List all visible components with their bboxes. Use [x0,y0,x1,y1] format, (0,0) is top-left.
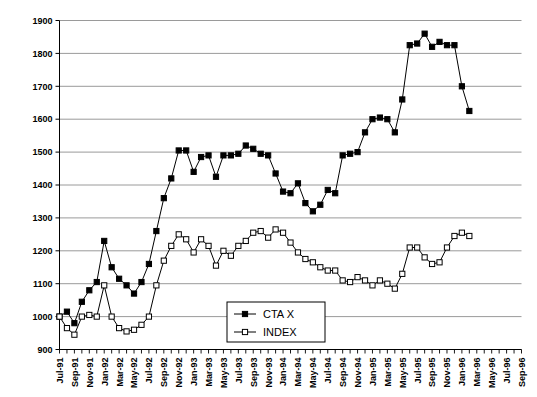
data-point-marker [273,227,278,232]
data-point-marker [325,268,330,273]
data-point-marker [236,151,241,156]
data-point-marker [452,233,457,238]
data-point-marker [228,153,233,158]
data-point-marker [236,243,241,248]
data-point-marker [206,153,211,158]
data-point-marker [243,238,248,243]
data-point-marker [198,154,203,159]
data-point-marker [377,115,382,120]
data-point-marker [266,235,271,240]
data-point-marker [258,228,263,233]
x-tick-label: Nov-91 [85,358,95,388]
x-tick-label: Sep-96 [517,358,527,388]
data-point-marker [94,279,99,284]
legend-label: CTA X [263,308,295,320]
legend-box: CTA XINDEX [227,302,325,342]
data-point-marker [64,309,69,314]
data-point-marker [139,279,144,284]
x-tick-label: Sep-95 [427,358,437,388]
series-cta-x [57,31,472,326]
x-axis [60,350,522,354]
data-point-marker [72,332,77,337]
legend-marker [242,329,247,334]
data-point-marker [429,261,434,266]
x-tick-label: Nov-94 [353,358,363,388]
data-point-marker [437,39,442,44]
data-point-marker [407,43,412,48]
data-point-marker [407,245,412,250]
data-point-marker [102,283,107,288]
data-point-marker [131,291,136,296]
data-point-marker [154,228,159,233]
data-point-marker [370,117,375,122]
data-point-marker [273,171,278,176]
data-point-marker [437,260,442,265]
data-point-marker [131,327,136,332]
chart-container: 9001000110012001300140015001600170018001… [0,0,537,397]
data-point-marker [467,108,472,113]
x-tick-label: Jul-96 [502,358,512,384]
data-point-marker [288,191,293,196]
data-point-marker [400,271,405,276]
data-point-marker [228,253,233,258]
y-tick-label: 1700 [32,82,52,92]
data-point-marker [169,176,174,181]
data-point-marker [400,97,405,102]
grid-lines [60,21,522,350]
x-tick-label: Jan-93 [189,358,199,387]
data-point-marker [444,245,449,250]
data-point-marker [94,314,99,319]
x-tick-label: Mar-92 [115,358,125,387]
x-tick-label: Nov-95 [442,358,452,388]
legend-marker [242,311,247,316]
x-tick-label: Jan-92 [100,358,110,387]
data-point-marker [117,326,122,331]
data-point-marker [124,329,129,334]
data-point-marker [109,314,114,319]
data-point-marker [303,256,308,261]
data-point-marker [362,278,367,283]
data-point-marker [333,191,338,196]
y-tick-label: 1200 [32,246,52,256]
data-point-marker [109,265,114,270]
data-point-marker [318,202,323,207]
data-point-marker [392,130,397,135]
data-point-marker [355,275,360,280]
data-point-marker [370,283,375,288]
data-point-marker [221,248,226,253]
line-chart: 9001000110012001300140015001600170018001… [0,0,537,397]
x-tick-label: Mar-96 [472,358,482,387]
x-tick-label: Jan-95 [368,358,378,387]
data-point-marker [169,243,174,248]
data-point-marker [72,321,77,326]
data-point-marker [57,314,62,319]
data-point-marker [444,43,449,48]
x-tick-label: May-96 [487,358,497,389]
y-tick-label: 900 [37,345,52,355]
data-point-marker [415,245,420,250]
data-point-marker [392,286,397,291]
data-point-marker [102,238,107,243]
data-point-marker [161,258,166,263]
data-point-marker [310,260,315,265]
data-point-marker [318,265,323,270]
data-point-marker [385,117,390,122]
data-point-marker [340,278,345,283]
data-point-marker [191,250,196,255]
data-point-marker [355,150,360,155]
data-point-marker [348,151,353,156]
x-tick-label: Mar-95 [383,358,393,387]
y-tick-label: 1400 [32,180,52,190]
data-point-marker [377,278,382,283]
x-tick-label: Jan-94 [278,358,288,387]
data-point-marker [333,268,338,273]
x-tick-label: Sep-93 [249,358,259,388]
data-point-marker [243,143,248,148]
data-point-marker [385,281,390,286]
data-point-marker [348,279,353,284]
data-point-marker [79,299,84,304]
data-point-marker [452,43,457,48]
x-tick-label: Mar-94 [293,358,303,387]
data-point-marker [280,230,285,235]
x-tick-label: Jul-94 [323,358,333,384]
